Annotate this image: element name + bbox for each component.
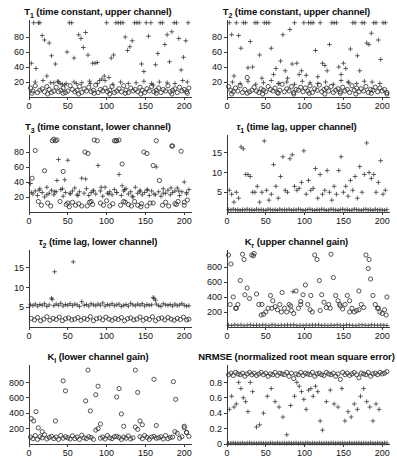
- svg-text:10: 10: [14, 283, 24, 293]
- plot-area: 51015050100150200: [198, 115, 397, 230]
- svg-text:20: 20: [14, 192, 24, 202]
- chart-panel: T2 (time constant, upper channel)2040608…: [198, 0, 397, 115]
- svg-text:0: 0: [224, 448, 229, 458]
- chart-panel: T3 (time constant, lower channel)2040608…: [0, 115, 198, 230]
- svg-text:150: 150: [336, 216, 351, 226]
- svg-text:50: 50: [63, 448, 73, 458]
- data-series: [226, 289, 389, 328]
- svg-text:20: 20: [14, 77, 24, 87]
- plot-area: 200400600800050100150200: [0, 345, 198, 462]
- svg-text:50: 50: [261, 216, 271, 226]
- plot-area: 20406080050100150200: [0, 115, 198, 230]
- svg-text:50: 50: [63, 331, 73, 341]
- svg-text:0: 0: [26, 216, 31, 226]
- svg-text:60: 60: [212, 47, 222, 57]
- svg-text:600: 600: [9, 393, 24, 403]
- svg-text:100: 100: [297, 331, 312, 341]
- svg-text:0: 0: [26, 448, 31, 458]
- svg-text:80: 80: [14, 147, 24, 157]
- svg-text:200: 200: [375, 331, 390, 341]
- svg-text:100: 100: [99, 101, 114, 111]
- svg-text:0: 0: [224, 331, 229, 341]
- svg-text:800: 800: [9, 378, 24, 388]
- svg-text:200: 200: [375, 101, 390, 111]
- data-series: [29, 315, 191, 323]
- svg-text:0.6: 0.6: [209, 393, 222, 403]
- svg-text:200: 200: [9, 424, 24, 434]
- svg-text:0.2: 0.2: [209, 424, 222, 434]
- svg-text:15: 15: [14, 263, 24, 273]
- svg-text:0: 0: [26, 331, 31, 341]
- data-series: [227, 20, 388, 86]
- chart-panel: T1 (time constant, upper channel)2040608…: [0, 0, 198, 115]
- plot-area: 20406080050100150200: [0, 0, 198, 115]
- data-series: [226, 251, 389, 317]
- chart-panel: NRMSE (normalized root mean square error…: [198, 345, 397, 462]
- svg-text:0.8: 0.8: [209, 378, 222, 388]
- svg-text:80: 80: [14, 32, 24, 42]
- chart-panel: τ2 (time lag, lower channel)510150501001…: [0, 230, 198, 345]
- svg-text:50: 50: [261, 331, 271, 341]
- svg-text:15: 15: [212, 148, 222, 158]
- svg-text:60: 60: [14, 47, 24, 57]
- data-series: [29, 20, 190, 87]
- svg-text:200: 200: [177, 101, 192, 111]
- svg-text:200: 200: [177, 331, 192, 341]
- data-series: [227, 139, 388, 205]
- svg-text:400: 400: [9, 408, 24, 418]
- svg-text:150: 150: [138, 331, 153, 341]
- svg-text:10: 10: [212, 168, 222, 178]
- svg-text:800: 800: [207, 262, 222, 272]
- plot-area: 20406080050100150200: [198, 0, 397, 115]
- svg-text:100: 100: [99, 216, 114, 226]
- svg-text:150: 150: [336, 448, 351, 458]
- svg-text:150: 150: [336, 331, 351, 341]
- data-series: [226, 370, 389, 382]
- multi-panel-scatter-figure: T1 (time constant, upper channel)2040608…: [0, 0, 397, 462]
- svg-text:150: 150: [138, 216, 153, 226]
- svg-text:100: 100: [99, 448, 114, 458]
- chart-panel: Kr (upper channel gain)20040060080005010…: [198, 230, 397, 345]
- chart-panel: Kl (lower channel gain)20040060080005010…: [0, 345, 198, 462]
- svg-text:50: 50: [63, 101, 73, 111]
- data-series: [30, 137, 189, 209]
- svg-text:40: 40: [14, 177, 24, 187]
- svg-text:0: 0: [217, 439, 222, 449]
- svg-text:40: 40: [14, 62, 24, 72]
- svg-text:0: 0: [224, 216, 229, 226]
- svg-text:60: 60: [14, 162, 24, 172]
- data-series: [28, 157, 191, 199]
- svg-text:5: 5: [217, 187, 222, 197]
- svg-text:600: 600: [207, 277, 222, 287]
- svg-text:100: 100: [297, 448, 312, 458]
- plot-area: 200400600800050100150200: [198, 230, 397, 345]
- svg-text:50: 50: [261, 101, 271, 111]
- svg-text:200: 200: [177, 448, 192, 458]
- svg-text:400: 400: [207, 292, 222, 302]
- data-series: [29, 368, 188, 435]
- data-series: [28, 83, 191, 96]
- plot-area: 00.20.40.60.8050100150200: [198, 345, 397, 462]
- svg-text:50: 50: [261, 448, 271, 458]
- svg-text:5: 5: [19, 302, 24, 312]
- chart-panel: τ1 (time lag, upper channel)510150501001…: [198, 115, 397, 230]
- svg-text:20: 20: [212, 77, 222, 87]
- svg-text:0: 0: [224, 101, 229, 111]
- data-series: [28, 260, 191, 309]
- data-series: [226, 441, 389, 446]
- svg-text:200: 200: [177, 216, 192, 226]
- svg-text:150: 150: [336, 101, 351, 111]
- svg-text:200: 200: [375, 216, 390, 226]
- svg-text:100: 100: [297, 101, 312, 111]
- data-series: [227, 380, 381, 437]
- svg-text:200: 200: [207, 307, 222, 317]
- svg-text:0.4: 0.4: [209, 408, 222, 418]
- svg-text:50: 50: [63, 216, 73, 226]
- svg-text:150: 150: [138, 101, 153, 111]
- svg-text:0: 0: [26, 101, 31, 111]
- svg-text:200: 200: [375, 448, 390, 458]
- svg-text:80: 80: [212, 32, 222, 42]
- plot-area: 51015050100150200: [0, 230, 198, 345]
- data-series: [28, 425, 191, 442]
- svg-text:100: 100: [99, 331, 114, 341]
